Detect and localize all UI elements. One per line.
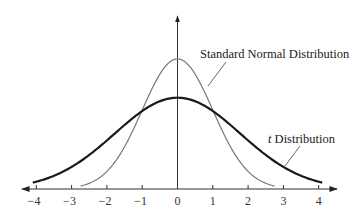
tick-label: −1 xyxy=(134,194,147,208)
t-label: t Distribution xyxy=(268,132,336,146)
t-leader-line xyxy=(285,146,300,166)
tick-label: 2 xyxy=(245,194,251,208)
tick-label: 3 xyxy=(280,194,286,208)
tick-label: 1 xyxy=(210,194,216,208)
tick-label: −2 xyxy=(99,194,112,208)
normal-label: Standard Normal Distribution xyxy=(200,47,350,61)
tick-label: −4 xyxy=(28,194,41,208)
tick-label: 0 xyxy=(175,194,181,208)
normal-leader-line xyxy=(208,62,226,86)
tick-label: 4 xyxy=(316,194,322,208)
tick-label: −3 xyxy=(63,194,76,208)
x-tick-labels: −4 −3 −2 −1 0 1 2 3 4 xyxy=(28,194,322,208)
chart: −4 −3 −2 −1 0 1 2 3 4 Standard Normal Di… xyxy=(0,0,361,218)
